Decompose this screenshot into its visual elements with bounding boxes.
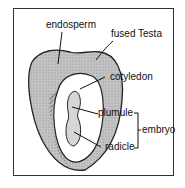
label-endosperm: endosperm [46,20,96,30]
label-fused-testa: fused Testa [111,29,162,39]
label-plumule: plumule [98,108,133,118]
label-cotyledon: cotyledon [110,72,153,82]
label-radicle: radicle [105,142,134,152]
label-embryo: embryo [142,125,175,135]
embryo-shape [66,91,81,146]
